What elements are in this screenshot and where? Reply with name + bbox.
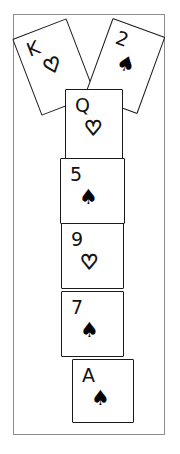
card-rank: 2 [113, 28, 131, 50]
spades-suit-icon: ♠ [91, 388, 110, 409]
nine-of-hearts-card[interactable]: 9♡ [61, 223, 124, 289]
card-face: 5♠ [61, 159, 124, 223]
card-rank: 9 [71, 230, 83, 249]
card-face: 9♡ [62, 224, 123, 288]
card-rank: A [82, 366, 95, 385]
illustration-frame: K♡2♠Q♡5♠9♡7♠A♠ [13, 14, 165, 435]
queen-of-hearts-card[interactable]: Q♡ [65, 89, 123, 161]
card-face: 7♠ [62, 292, 123, 356]
hearts-suit-icon: ♡ [84, 118, 102, 138]
ace-of-spades-card[interactable]: A♠ [72, 359, 134, 423]
spades-suit-icon: ♠ [113, 52, 138, 78]
card-rank: 7 [71, 298, 83, 317]
hearts-suit-icon: ♡ [40, 53, 64, 78]
spades-suit-icon: ♠ [80, 320, 99, 341]
card-face: Q♡ [66, 90, 122, 160]
card-rank: 5 [70, 165, 82, 184]
card-stack-illustration: K♡2♠Q♡5♠9♡7♠A♠ [0, 0, 180, 454]
spades-suit-icon: ♠ [79, 187, 98, 208]
seven-of-spades-card[interactable]: 7♠ [61, 291, 124, 357]
five-of-spades-card[interactable]: 5♠ [60, 158, 125, 224]
card-face: A♠ [73, 360, 133, 422]
card-rank: Q [75, 96, 90, 115]
hearts-suit-icon: ♡ [80, 252, 98, 272]
